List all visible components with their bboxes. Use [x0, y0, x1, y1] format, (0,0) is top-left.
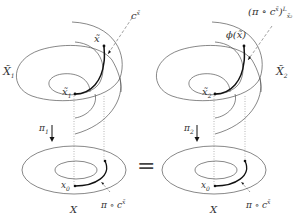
right-base-path-label: π ∘ cx̃ [246, 199, 270, 210]
covering-space-diagram [0, 0, 296, 220]
right-lift-endpoint-label: ϕ(x̃) [226, 30, 246, 40]
right-base-space-label: X [210, 205, 217, 215]
left-lifted-path [75, 46, 104, 94]
left-basepoint-label: x̃1 [62, 87, 71, 99]
right-base-inner [195, 161, 237, 179]
left-lift-endpoint-label: x̃ [94, 34, 100, 44]
left-base-path-label: π ∘ cx̃ [101, 199, 125, 210]
equals-sign: = [137, 155, 155, 177]
left-path-label: cx̃ [131, 10, 140, 21]
left-basepoint-dot [74, 93, 77, 96]
right-path-label: (π ∘ cx̃)Lx̃₂ [248, 6, 292, 19]
left-base-inner [55, 161, 97, 179]
right-basepoint-label: x̃2 [202, 87, 211, 99]
left-base-space-label: X [70, 205, 77, 215]
left-base-point-label: x0 [61, 181, 70, 192]
right-lifted-path [215, 46, 244, 94]
right-base-point-label: x0 [201, 181, 210, 192]
left-covering-space [16, 22, 122, 134]
right-path-leader [248, 26, 272, 60]
left-base-path [75, 161, 107, 186]
left-endpoint-dot [103, 45, 106, 48]
right-base-path [215, 161, 247, 186]
right-covering-space [156, 22, 262, 134]
right-projection-label: π2 [184, 124, 194, 135]
left-path-leader [108, 18, 132, 54]
left-projection-label: π1 [39, 124, 49, 135]
right-covering-space-label: X̃2 [276, 66, 288, 79]
left-covering-space-label: X̃1 [3, 66, 15, 79]
